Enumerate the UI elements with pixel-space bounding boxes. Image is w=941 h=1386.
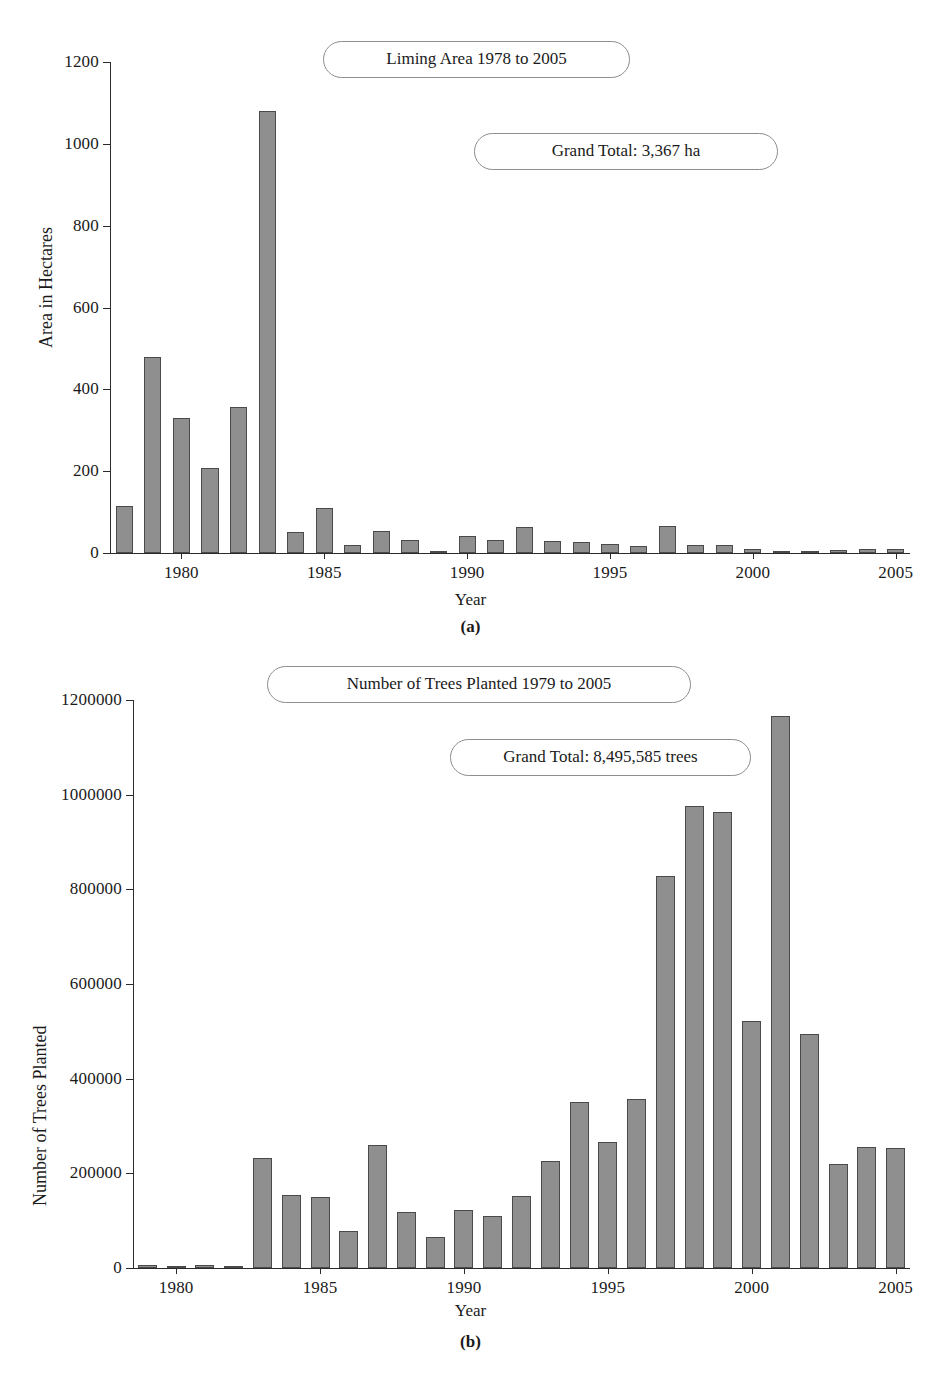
y-tick-mark (126, 1173, 133, 1174)
x-tick-mark (181, 554, 182, 559)
figure-b-caption: (b) (0, 1332, 941, 1352)
x-tick-mark (467, 554, 468, 559)
chart-b-y-axis-line (133, 700, 134, 1269)
bar (859, 549, 876, 553)
figure-b: Number of Trees Planted 1979 to 2005 Gra… (0, 640, 941, 1386)
chart-a-x-axis-title: Year (0, 590, 941, 610)
bar (287, 532, 304, 553)
bar (339, 1231, 358, 1268)
x-tick-mark (610, 554, 611, 559)
bar (483, 1216, 502, 1268)
x-tick-label: 1980 (164, 563, 199, 583)
bar (887, 549, 904, 554)
x-tick-label: 2005 (878, 1278, 913, 1298)
y-tick-label: 200 (73, 461, 99, 481)
bar (316, 508, 333, 553)
bar (541, 1161, 560, 1268)
bar (173, 418, 190, 553)
bar (201, 468, 218, 553)
bar (167, 1266, 186, 1268)
y-tick-label: 1200 (64, 52, 99, 72)
x-tick-label: 1995 (590, 1278, 625, 1298)
x-tick-label: 2000 (735, 563, 770, 583)
x-tick-mark (752, 1269, 753, 1274)
bar (195, 1265, 214, 1268)
x-tick-mark (608, 1269, 609, 1274)
y-tick-mark (126, 1268, 133, 1269)
bar (401, 540, 418, 554)
y-tick-label: 0 (113, 1258, 122, 1278)
bar (801, 551, 818, 553)
bar (253, 1158, 272, 1268)
y-tick-label: 1000000 (61, 785, 122, 805)
y-tick-label: 1000 (64, 134, 99, 154)
y-tick-mark (103, 471, 110, 472)
bar (311, 1197, 330, 1268)
y-tick-label: 600 (73, 298, 99, 318)
bar (259, 111, 276, 553)
bar (516, 527, 533, 553)
x-tick-mark (896, 554, 897, 559)
x-tick-label: 2000 (734, 1278, 769, 1298)
x-tick-mark (464, 1269, 465, 1274)
y-tick-mark (126, 984, 133, 985)
x-tick-mark (320, 1269, 321, 1274)
x-tick-label: 1990 (450, 563, 485, 583)
y-tick-mark (126, 1079, 133, 1080)
bar (800, 1034, 819, 1268)
x-tick-mark (753, 554, 754, 559)
bar (886, 1148, 905, 1268)
y-tick-mark (103, 389, 110, 390)
bar (282, 1195, 301, 1268)
chart-a-y-axis-title: Area in Hectares (36, 227, 57, 348)
y-tick-mark (103, 144, 110, 145)
bar (373, 531, 390, 554)
figure-a: Liming Area 1978 to 2005 Grand Total: 3,… (0, 0, 941, 640)
x-tick-mark (896, 1269, 897, 1274)
bar (344, 545, 361, 553)
bar (687, 545, 704, 553)
y-tick-mark (103, 226, 110, 227)
x-tick-label: 1985 (303, 1278, 338, 1298)
x-tick-mark (324, 554, 325, 559)
bar (230, 407, 247, 553)
y-tick-mark (126, 795, 133, 796)
bar (630, 546, 647, 553)
bar (138, 1265, 157, 1268)
bar (512, 1196, 531, 1268)
y-tick-mark (126, 700, 133, 701)
y-tick-label: 400000 (70, 1069, 122, 1089)
y-tick-mark (103, 553, 110, 554)
x-tick-label: 1990 (447, 1278, 482, 1298)
bar (224, 1266, 243, 1268)
y-tick-mark (126, 889, 133, 890)
chart-b-x-axis-title: Year (0, 1301, 941, 1321)
bar (659, 526, 676, 553)
chart-a-x-axis-line (110, 553, 910, 554)
bar (744, 549, 761, 553)
x-tick-label: 2005 (878, 563, 913, 583)
bar (656, 876, 675, 1268)
y-tick-mark (103, 62, 110, 63)
x-tick-mark (176, 1269, 177, 1274)
y-tick-label: 1200000 (61, 690, 122, 710)
bar (771, 716, 790, 1268)
bar (830, 550, 847, 553)
bar (829, 1164, 848, 1268)
bar (397, 1212, 416, 1268)
bar (685, 806, 704, 1268)
bar (857, 1147, 876, 1268)
chart-b-x-axis-line (133, 1268, 910, 1269)
x-tick-label: 1980 (159, 1278, 194, 1298)
y-tick-label: 600000 (70, 974, 122, 994)
x-tick-label: 1995 (593, 563, 628, 583)
bar (487, 540, 504, 554)
bar (459, 536, 476, 553)
y-tick-label: 800000 (70, 879, 122, 899)
x-tick-label: 1985 (307, 563, 342, 583)
bar (601, 544, 618, 553)
bar (713, 812, 732, 1268)
bar (144, 357, 161, 553)
bar (773, 551, 790, 553)
bar (116, 506, 133, 553)
